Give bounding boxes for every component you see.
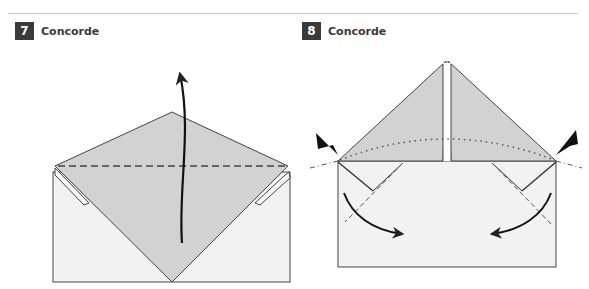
origami-diagrams bbox=[0, 0, 589, 289]
mountain-fold-line-left bbox=[310, 161, 338, 168]
mountain-fold-line-right bbox=[556, 161, 582, 168]
step-8-diagram bbox=[310, 61, 582, 267]
push-pointer-left-icon bbox=[316, 133, 338, 155]
left-triangle bbox=[338, 61, 446, 161]
paper-base bbox=[338, 161, 556, 267]
step-7-diagram bbox=[53, 74, 290, 282]
push-pointer-right-icon bbox=[556, 130, 578, 155]
right-triangle bbox=[448, 61, 556, 161]
